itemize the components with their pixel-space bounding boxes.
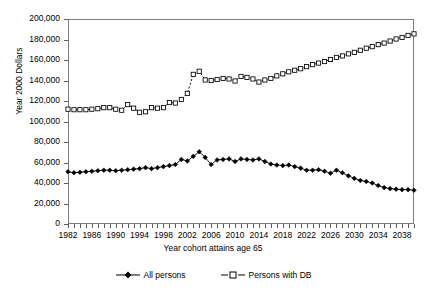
x-axis-tick-mark — [146, 224, 147, 228]
x-axis-tick-mark — [342, 224, 343, 228]
legend-label-persons-with-db: Persons with DB — [249, 270, 312, 280]
x-axis-tick-mark — [325, 224, 326, 228]
x-axis-tick-mark — [134, 224, 135, 228]
legend-marker-open-square — [220, 270, 246, 280]
legend-marker-filled-diamond — [115, 270, 141, 280]
x-axis-tick-mark — [98, 224, 99, 228]
x-axis-tick-label: 2038 — [387, 230, 417, 240]
x-axis-tick-mark — [408, 224, 409, 228]
x-axis-tick-mark — [366, 224, 367, 228]
y-axis-tick-label: 140,000 — [4, 75, 60, 85]
x-axis-tick-mark — [110, 224, 111, 228]
y-axis-tick-label: 100,000 — [4, 116, 60, 126]
x-axis-tick-mark — [301, 224, 302, 228]
x-axis-tick-mark — [277, 224, 278, 228]
x-axis-tick-mark — [205, 224, 206, 228]
x-axis-tick-mark — [140, 224, 141, 228]
x-axis-tick-mark — [68, 224, 69, 228]
x-axis-tick-mark — [157, 224, 158, 228]
x-axis-tick-mark — [235, 224, 236, 228]
legend-item-all-persons: All persons — [115, 270, 186, 280]
x-axis-tick-mark — [390, 224, 391, 228]
x-axis-tick-mark — [116, 224, 117, 228]
y-axis-tick-label: 60,000 — [4, 157, 60, 167]
x-axis-tick-mark — [259, 224, 260, 228]
x-axis-tick-mark — [289, 224, 290, 228]
y-axis-tick-mark — [64, 101, 68, 102]
x-axis-tick-mark — [396, 224, 397, 228]
x-axis-tick-mark — [253, 224, 254, 228]
x-axis-tick-mark — [199, 224, 200, 228]
y-axis-tick-mark — [64, 142, 68, 143]
y-axis-tick-label: 160,000 — [4, 54, 60, 64]
y-axis-tick-mark — [64, 163, 68, 164]
legend-label-all-persons: All persons — [144, 270, 186, 280]
x-axis-tick-mark — [348, 224, 349, 228]
x-axis-tick-mark — [104, 224, 105, 228]
x-axis-tick-mark — [360, 224, 361, 228]
x-axis-tick-mark — [319, 224, 320, 228]
plot-area — [68, 19, 414, 224]
x-axis-tick-mark — [80, 224, 81, 228]
y-axis-tick-mark — [64, 183, 68, 184]
x-axis-tick-mark — [187, 224, 188, 228]
y-axis-tick-mark — [64, 40, 68, 41]
y-axis-tick-label: 20,000 — [4, 198, 60, 208]
x-axis-tick-mark — [217, 224, 218, 228]
legend-item-persons-with-db: Persons with DB — [220, 270, 312, 280]
x-axis-tick-mark — [313, 224, 314, 228]
x-axis-tick-mark — [307, 224, 308, 228]
x-axis-tick-mark — [223, 224, 224, 228]
y-axis-tick-mark — [64, 204, 68, 205]
y-axis-tick-mark — [64, 19, 68, 20]
x-axis-tick-mark — [169, 224, 170, 228]
x-axis-tick-mark — [128, 224, 129, 228]
x-axis-tick-mark — [283, 224, 284, 228]
x-axis-tick-mark — [378, 224, 379, 228]
x-axis-tick-mark — [74, 224, 75, 228]
x-axis-tick-mark — [152, 224, 153, 228]
x-axis-tick-mark — [181, 224, 182, 228]
y-axis-tick-label: 40,000 — [4, 177, 60, 187]
x-axis-tick-mark — [175, 224, 176, 228]
x-axis-tick-mark — [163, 224, 164, 228]
x-axis-tick-mark — [211, 224, 212, 228]
x-axis-tick-mark — [295, 224, 296, 228]
chart-container: Year 2000 Dollars 200,000180,000160,0001… — [0, 0, 426, 296]
x-axis-tick-mark — [384, 224, 385, 228]
x-axis-tick-mark — [265, 224, 266, 228]
y-axis-tick-label: 120,000 — [4, 95, 60, 105]
x-axis-tick-mark — [336, 224, 337, 228]
x-axis-tick-mark — [354, 224, 355, 228]
x-axis-tick-mark — [271, 224, 272, 228]
chart-legend: All persons Persons with DB — [0, 270, 426, 280]
x-axis-tick-mark — [193, 224, 194, 228]
x-axis-tick-mark — [247, 224, 248, 228]
x-axis-tick-mark — [414, 224, 415, 228]
x-axis-tick-mark — [122, 224, 123, 228]
x-axis-tick-mark — [241, 224, 242, 228]
x-axis-tick-mark — [92, 224, 93, 228]
y-axis-tick-label: 200,000 — [4, 13, 60, 23]
y-axis-tick-mark — [64, 81, 68, 82]
y-axis-tick-label: 180,000 — [4, 34, 60, 44]
y-axis-tick-label: 80,000 — [4, 136, 60, 146]
x-axis-tick-mark — [402, 224, 403, 228]
x-axis-tick-mark — [330, 224, 331, 228]
y-axis-tick-mark — [64, 122, 68, 123]
x-axis-title: Year cohort attains age 65 — [0, 243, 426, 253]
y-axis-tick-mark — [64, 60, 68, 61]
y-axis-tick-label: 0 — [4, 218, 60, 228]
x-axis-tick-mark — [86, 224, 87, 228]
x-axis-tick-mark — [372, 224, 373, 228]
x-axis-tick-mark — [229, 224, 230, 228]
